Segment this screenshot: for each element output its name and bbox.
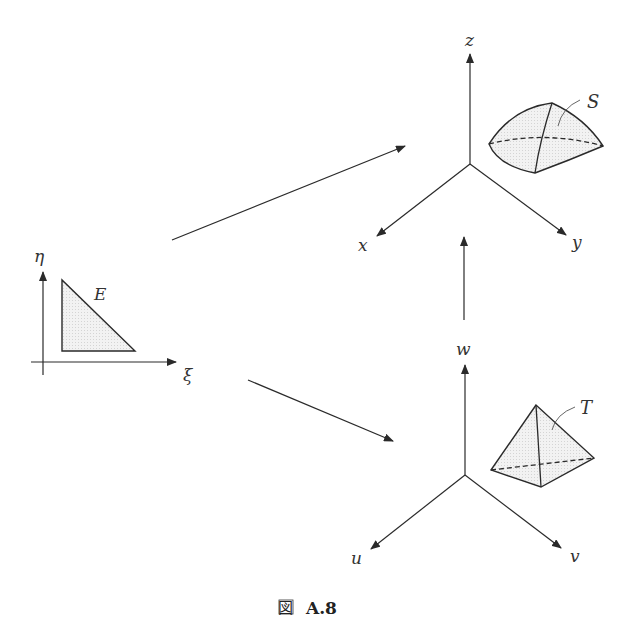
y-axis: [470, 164, 566, 235]
label-xi: ξ: [183, 365, 194, 385]
x-axis: [377, 164, 470, 236]
label-z: z: [464, 30, 475, 50]
reference-element-group: η ξ E: [31, 246, 194, 385]
figure-caption: 図 A.8: [278, 598, 337, 618]
label-u: u: [351, 548, 362, 568]
label-T: T: [580, 397, 594, 418]
parametric-space-group: w u v T: [351, 339, 594, 568]
figure-canvas: η ξ E z x y S w u v T 図: [0, 0, 640, 638]
physical-space-group: z x y S: [358, 30, 603, 255]
label-E: E: [93, 284, 107, 304]
tetrahedron-T: [491, 405, 594, 487]
label-y: y: [571, 232, 582, 252]
label-S: S: [587, 91, 599, 112]
label-x: x: [358, 235, 368, 255]
u-axis: [371, 475, 465, 549]
label-v: v: [570, 546, 580, 566]
arrow-E-to-S: [172, 146, 405, 240]
label-eta: η: [34, 246, 45, 266]
v-axis: [465, 475, 561, 548]
arrow-E-to-T: [248, 380, 393, 441]
label-w: w: [456, 339, 471, 359]
caption-prefix: 図: [278, 599, 293, 617]
caption-label: A.8: [305, 598, 337, 618]
